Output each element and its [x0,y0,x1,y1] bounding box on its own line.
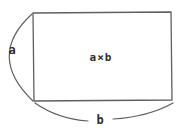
rectangle-area-diagram: a b a×b [0,0,182,139]
height-brace-arc [9,14,33,101]
width-label: b [96,113,103,127]
width-brace-arc-left [35,103,88,121]
width-brace-arc-right [113,103,173,119]
area-label: a×b [90,51,113,64]
height-label: a [8,43,15,57]
